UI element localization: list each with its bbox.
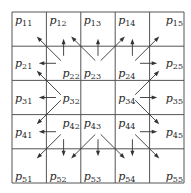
cell-label-p15: p15 [166, 14, 183, 28]
cell-label-p53: p53 [84, 170, 101, 184]
arrow-p42-to-p51 [37, 134, 61, 158]
arrow-p34-to-p45 [135, 100, 159, 124]
arrow-p43-to-p54 [101, 134, 125, 158]
label-subscript: 53 [91, 175, 101, 184]
label-subscript: 41 [22, 131, 32, 140]
arrow-p34-to-p35 [140, 96, 157, 100]
label-base: p [118, 67, 125, 80]
cell-label-p51: p51 [15, 170, 32, 184]
label-subscript: 45 [173, 131, 183, 140]
arrow-p22-to-p21 [39, 61, 56, 65]
label-subscript: 23 [91, 72, 101, 81]
arrow-head-icon [39, 61, 45, 65]
arrow-head-icon [96, 39, 100, 45]
label-base: p [84, 170, 91, 183]
cell-label-p23: p23 [84, 67, 101, 81]
arrow-shaft [135, 134, 156, 155]
label-base: p [84, 67, 91, 80]
cell-label-p52: p52 [49, 170, 66, 184]
label-base: p [118, 14, 125, 27]
label-base: p [118, 92, 125, 105]
arrow-head-icon [96, 151, 100, 157]
label-base: p [15, 14, 22, 27]
cell-label-p34: p34 [118, 92, 135, 106]
arrow-shaft [135, 100, 156, 121]
cell-label-p35: p35 [166, 92, 183, 106]
arrow-shaft [101, 39, 122, 60]
arrow-head-icon [152, 96, 158, 100]
arrow-p24-to-p15 [135, 37, 159, 61]
arrow-head-icon [130, 151, 134, 157]
cell-label-p25: p25 [166, 57, 183, 71]
label-subscript: 21 [22, 62, 32, 71]
arrow-p32-to-p21 [37, 71, 61, 95]
label-subscript: 42 [70, 122, 80, 131]
arrow-p42-to-p52 [62, 139, 66, 156]
cell-label-p54: p54 [118, 170, 135, 184]
label-base: p [15, 126, 22, 139]
arrow-head-icon [39, 96, 45, 100]
label-base: p [166, 57, 173, 70]
arrow-p44-to-p45 [140, 130, 157, 134]
label-base: p [63, 67, 70, 80]
arrow-shaft [40, 39, 61, 60]
label-base: p [166, 92, 173, 105]
arrow-p34-to-p25 [135, 71, 159, 95]
arrow-head-icon [130, 39, 134, 45]
cell-label-p31: p31 [15, 92, 32, 106]
arrow-head-icon [152, 61, 158, 65]
label-base: p [49, 170, 56, 183]
cell-label-p45: p45 [166, 126, 183, 140]
label-subscript: 32 [70, 97, 80, 106]
label-subscript: 14 [125, 19, 135, 28]
label-base: p [84, 14, 91, 27]
label-base: p [15, 92, 22, 105]
arrow-head-icon [39, 130, 45, 134]
cell-label-p43: p43 [84, 117, 101, 131]
label-base: p [118, 117, 125, 130]
arrow-p22-to-p11 [37, 37, 61, 61]
arrow-p23-to-p13 [96, 39, 100, 56]
label-base: p [166, 14, 173, 27]
label-subscript: 54 [125, 175, 135, 184]
cell-label-p32: p32 [63, 92, 80, 106]
cell-label-p12: p12 [49, 14, 66, 28]
arrow-p44-to-p54 [130, 139, 134, 156]
arrow-head-icon [62, 151, 66, 157]
label-subscript: 52 [56, 175, 66, 184]
arrow-shaft [40, 134, 61, 155]
label-base: p [15, 170, 22, 183]
label-base: p [84, 117, 91, 130]
arrow-p32-to-p31 [39, 96, 56, 100]
label-subscript: 22 [70, 72, 80, 81]
label-subscript: 12 [56, 19, 66, 28]
arrow-shaft [135, 39, 156, 60]
cell-label-p55: p55 [166, 170, 183, 184]
label-subscript: 51 [22, 175, 32, 184]
cell-label-p42: p42 [63, 117, 80, 131]
cell-label-p11: p11 [15, 14, 32, 28]
label-subscript: 44 [125, 122, 135, 131]
cell-label-p13: p13 [84, 14, 101, 28]
label-base: p [166, 126, 173, 139]
arrow-shaft [40, 100, 61, 121]
cell-label-p41: p41 [15, 126, 32, 140]
arrow-p22-to-p12 [62, 39, 66, 56]
arrow-shaft [101, 134, 122, 155]
arrows [37, 37, 159, 159]
arrow-p24-to-p14 [130, 39, 134, 56]
arrow-p43-to-p53 [96, 139, 100, 156]
arrow-p43-to-p52 [71, 134, 95, 158]
arrow-shaft [74, 134, 95, 155]
arrow-shaft [74, 39, 95, 60]
neighborhood-grid-diagram: p11p12p13p14p15p21p22p23p24p25p31p32p34p… [0, 0, 191, 193]
label-subscript: 34 [125, 97, 135, 106]
cell-label-p44: p44 [118, 117, 135, 131]
label-base: p [15, 57, 22, 70]
label-base: p [118, 170, 125, 183]
arrow-head-icon [152, 130, 158, 134]
label-base: p [166, 170, 173, 183]
arrow-p44-to-p55 [135, 134, 159, 158]
label-base: p [63, 92, 70, 105]
arrow-p23-to-p12 [71, 37, 95, 61]
